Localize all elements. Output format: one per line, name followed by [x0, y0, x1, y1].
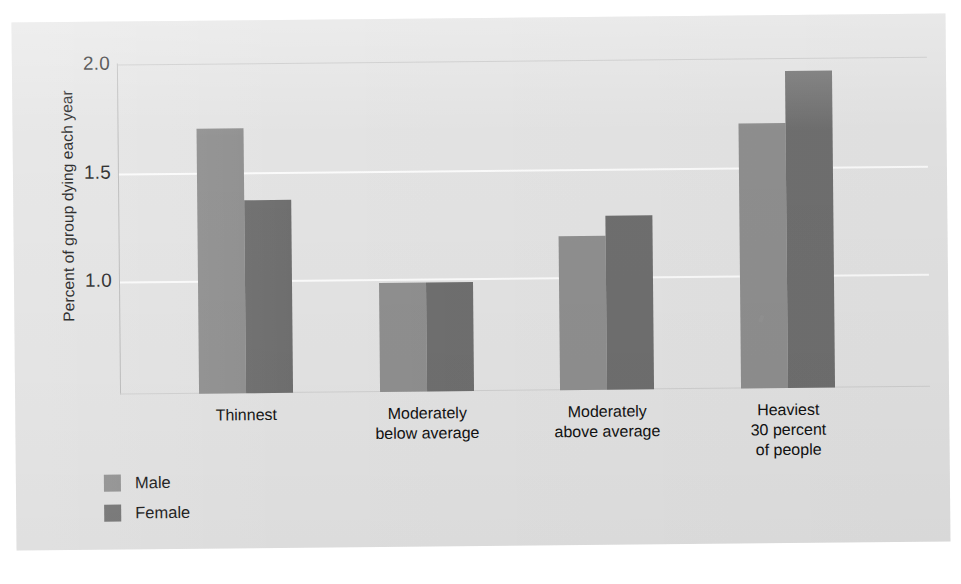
- bar-female-0: [244, 200, 293, 394]
- bar-female-2: [605, 216, 654, 390]
- plot-area: 1.01.52.0 Percent of group dying each ye…: [11, 14, 950, 551]
- x-category-label: Moderately below average: [347, 403, 507, 445]
- bar-male-3: [738, 123, 788, 388]
- x-category-label: Moderately above average: [527, 401, 687, 443]
- bar-female-3: [785, 71, 835, 388]
- x-category-label: Heaviest 30 percent of people: [708, 399, 869, 461]
- bar-female-1: [426, 282, 474, 391]
- legend-label-male: Male: [135, 472, 171, 491]
- x-category-label: Thinnest: [166, 404, 326, 426]
- figure-root: 1.01.52.0 Percent of group dying each ye…: [0, 0, 961, 584]
- bar-male-1: [379, 283, 427, 392]
- legend-item-female: Female: [104, 499, 190, 526]
- legend-label-female: Female: [135, 502, 190, 522]
- bar-male-2: [559, 236, 607, 391]
- legend-item-male: Male: [104, 469, 190, 496]
- male-swatch-icon: [104, 474, 121, 491]
- female-swatch-icon: [104, 504, 121, 521]
- chart-panel: 1.01.52.0 Percent of group dying each ye…: [11, 14, 950, 551]
- bar-male-0: [197, 128, 247, 393]
- legend: Male Female: [104, 469, 191, 530]
